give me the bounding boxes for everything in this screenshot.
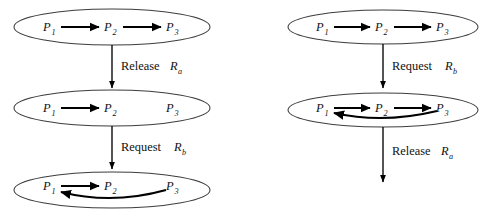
node-p3-label: P (165, 101, 174, 115)
transition-resource-subscript: a (178, 67, 182, 76)
node-p1-subscript: 1 (52, 28, 56, 37)
node-p1-label: P (315, 101, 324, 115)
node-p3-subscript: 3 (174, 109, 179, 118)
deadlock-state-diagram: P 1 P 2 P 3 Release R a P 1 P 2 P 3 Requ… (0, 0, 490, 217)
transition-resource-label: R (173, 140, 182, 154)
transition-resource-label: R (440, 144, 449, 158)
node-p1-label: P (42, 101, 51, 115)
node-p2-label: P (103, 101, 112, 115)
transition-left-1: Release R a (112, 45, 182, 88)
node-p3-label: P (435, 101, 444, 115)
node-p3-label: P (165, 20, 174, 34)
node-p2-subscript: 2 (113, 109, 117, 118)
node-p2-subscript: 2 (384, 109, 388, 118)
node-p1-subscript: 1 (325, 109, 329, 118)
node-p3-subscript: 3 (174, 28, 179, 37)
node-p1-label: P (42, 20, 51, 34)
transition-resource-label: R (444, 59, 453, 73)
node-p2-label: P (103, 20, 112, 34)
node-p1-subscript: 1 (52, 187, 56, 196)
transition-resource-subscript: a (449, 152, 453, 161)
node-p1-subscript: 1 (52, 109, 56, 118)
node-p3-label: P (435, 20, 444, 34)
state-left-3: P 1 P 2 P 3 (14, 172, 210, 208)
node-p1-subscript: 1 (325, 28, 329, 37)
state-right-2: P 1 P 2 P 3 (288, 93, 478, 127)
state-left-2: P 1 P 2 P 3 (14, 90, 210, 126)
transition-resource-subscript: b (453, 67, 457, 76)
node-p2-subscript: 2 (113, 28, 117, 37)
node-p2-subscript: 2 (384, 28, 388, 37)
node-p2-subscript: 2 (113, 187, 117, 196)
node-p3-label: P (165, 179, 174, 193)
figure-canvas: P 1 P 2 P 3 Release R a P 1 P 2 P 3 Requ… (0, 0, 490, 217)
transition-right-1: Request R b (383, 44, 457, 88)
transition-right-2: Release R a (383, 127, 453, 182)
transition-resource-subscript: b (182, 148, 186, 157)
node-p3-subscript: 3 (174, 187, 179, 196)
node-p1-label: P (42, 179, 51, 193)
node-p2-label: P (374, 20, 383, 34)
node-p2-label: P (374, 101, 383, 115)
transition-action-label: Release (392, 144, 431, 158)
state-left-1: P 1 P 2 P 3 (14, 9, 210, 45)
transition-action-label: Release (121, 59, 160, 73)
transition-action-label: Request (121, 140, 161, 154)
transition-left-2: Request R b (112, 126, 186, 169)
node-p1-label: P (315, 20, 324, 34)
state-right-1: P 1 P 2 P 3 (288, 10, 478, 44)
node-p3-subscript: 3 (444, 109, 449, 118)
transition-resource-label: R (169, 59, 178, 73)
node-p3-subscript: 3 (444, 28, 449, 37)
node-p2-label: P (103, 179, 112, 193)
transition-action-label: Request (392, 59, 432, 73)
